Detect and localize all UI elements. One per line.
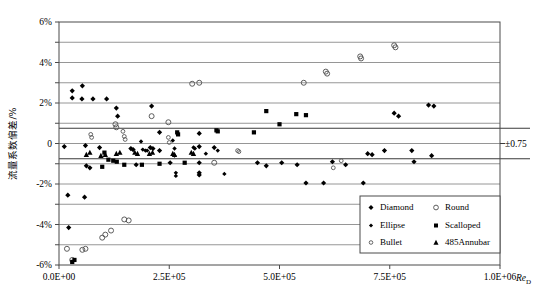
x-tick-label-3: 7.5E+05 bbox=[373, 272, 406, 282]
y-tick-label--2: -2% bbox=[36, 179, 52, 189]
y-tick-label--4: -4% bbox=[36, 220, 52, 230]
y-tick-label-4: 4% bbox=[39, 58, 52, 68]
scatter-chart-figure: -6%-4%-2%02%4%6% 0.0E+002.5E+055.0E+057.… bbox=[0, 0, 559, 296]
tolerance-label: ±0.75 bbox=[505, 139, 527, 149]
y-tick-label-6: 6% bbox=[39, 17, 52, 27]
x-tick-label-2: 5.0E+05 bbox=[263, 272, 296, 282]
legend-label-bullet: Bullet bbox=[380, 237, 402, 247]
data-point bbox=[183, 161, 187, 165]
x-tick-label-0: 0.0E+00 bbox=[43, 272, 76, 282]
y-axis-title: 流量系数偏差/% bbox=[7, 107, 18, 179]
data-point bbox=[216, 129, 220, 133]
data-point bbox=[100, 165, 104, 169]
data-point bbox=[72, 258, 76, 262]
x-tick-label-1: 2.5E+05 bbox=[153, 272, 186, 282]
data-point bbox=[304, 113, 308, 117]
x-axis-title-subscript: D bbox=[526, 278, 531, 286]
data-point bbox=[115, 160, 119, 164]
tolerance-annotation: ±0.75 bbox=[500, 139, 527, 149]
legend-marker-filled-square bbox=[434, 224, 438, 228]
data-point bbox=[252, 130, 256, 134]
data-point bbox=[277, 122, 281, 126]
data-point bbox=[106, 158, 110, 162]
legend-label-scalloped: Scalloped bbox=[445, 220, 481, 230]
data-point bbox=[294, 112, 298, 116]
data-point bbox=[264, 109, 268, 113]
legend-label-round: Round bbox=[445, 202, 470, 212]
data-point bbox=[140, 163, 144, 167]
data-point bbox=[122, 163, 126, 167]
data-point bbox=[176, 132, 180, 136]
y-tick-label-0: 0 bbox=[47, 139, 52, 149]
chart-canvas: -6%-4%-2%02%4%6% 0.0E+002.5E+055.0E+057.… bbox=[0, 0, 559, 296]
legend-label-485annubar: 485Annubar bbox=[445, 237, 490, 247]
legend-box[interactable]: DiamondEllipseBulletRoundScalloped485Ann… bbox=[360, 196, 500, 253]
y-tick-label-2: 2% bbox=[39, 98, 52, 108]
legend-label-ellipse: Ellipse bbox=[380, 220, 405, 230]
data-point bbox=[157, 162, 161, 166]
x-tick-label-4: 1.0E+06 bbox=[484, 272, 517, 282]
y-tick-label--6: -6% bbox=[36, 260, 52, 270]
legend-label-diamond: Diamond bbox=[380, 202, 414, 212]
